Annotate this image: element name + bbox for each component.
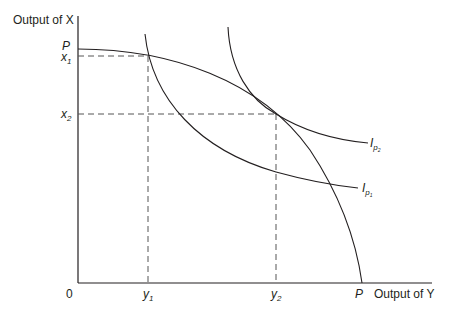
ip2-label: Ip2 <box>370 136 381 153</box>
ppf-label-x: P <box>355 287 363 301</box>
x-axis-title: Output of Y <box>374 287 435 301</box>
ppf-diagram: Output of X P x1 x2 0 y1 y2 P Output of … <box>0 0 454 310</box>
ip1-label: Ip1 <box>362 181 373 198</box>
indifference-curve-ip2 <box>228 27 368 143</box>
x-tick-y1: y1 <box>142 287 153 303</box>
ppf-curve <box>78 49 362 283</box>
y-axis-title: Output of X <box>13 13 74 27</box>
x-tick-y2: y2 <box>270 287 282 303</box>
indifference-curve-ip1 <box>145 34 358 188</box>
y-tick-x2: x2 <box>60 107 72 123</box>
origin-label: 0 <box>66 287 73 301</box>
